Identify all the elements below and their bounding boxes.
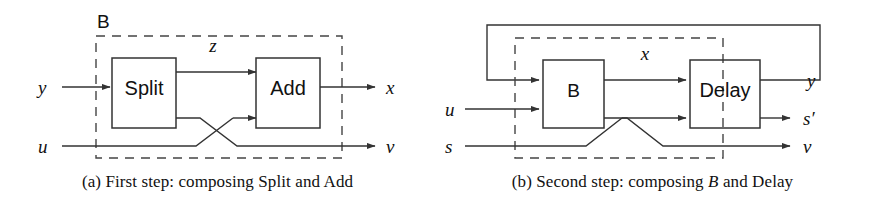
caption-a-block-2: Add [324,172,354,191]
wire-split-cross-to-v [176,118,375,146]
b-block-label: B [567,80,580,101]
delay-block-label: Delay [699,79,750,101]
label-x-b: x [640,43,650,64]
wire-b-cross-to-v [604,118,790,146]
label-s: s [445,136,452,157]
label-y-b: y [805,70,816,91]
panel-a-first-step: B y u Split z Add [0,0,435,218]
label-u: u [38,136,48,157]
add-block-label: Add [270,77,306,99]
figure-two-panel-block-diagrams: B y u Split z Add [0,0,870,218]
wire-u-cross-to-add [62,118,233,146]
caption-a: (a) First step: composing Split and Add [0,172,435,192]
label-y: y [36,77,47,98]
label-z: z [208,35,217,56]
panel-b-second-step: B u s x Delay y s′ [435,0,870,218]
panel-a-diagram: B y u Split z Add [0,0,435,170]
caption-b-block-1: B [708,172,718,191]
wire-feedback-loop-y-to-b [487,25,820,80]
label-v: v [386,136,395,157]
caption-b-mid: and [719,172,753,191]
caption-a-block-1: Split [258,172,291,191]
caption-b: (b) Second step: composing B and Delay [435,172,870,192]
caption-b-block-2: Delay [752,172,793,191]
label-x: x [385,77,395,98]
caption-a-prefix: (a) First step: composing [82,172,258,191]
label-s-prime: s′ [803,108,815,129]
group-box-b-panel [515,38,723,158]
caption-a-mid: and [291,172,324,191]
split-block-label: Split [125,77,164,99]
panel-b-diagram: B u s x Delay y s′ [435,0,870,170]
caption-b-prefix: (b) Second step: composing [512,172,708,191]
label-v-b: v [803,136,812,157]
label-u-b: u [445,99,455,120]
group-label-b: B [97,11,110,32]
